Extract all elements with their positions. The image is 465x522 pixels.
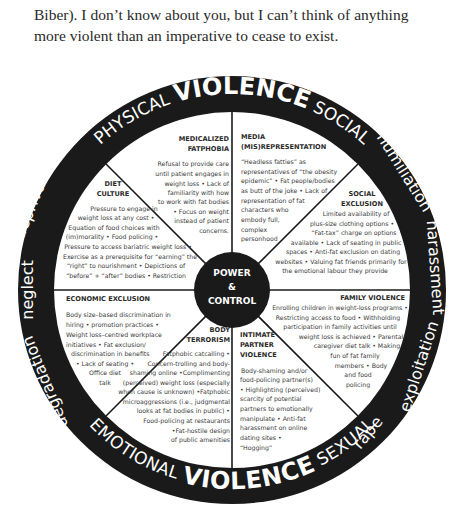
svg-text:Exercise as a prerequisite for: Exercise as a prerequisite for “earning”…: [63, 253, 197, 261]
svg-text:(MIS)REPRESENTATION: (MIS)REPRESENTATION: [241, 143, 326, 151]
svg-text:shaming online •Complimenting: shaming online •Complimenting: [130, 369, 230, 377]
svg-text:scarcity of potential: scarcity of potential: [240, 395, 302, 403]
svg-text:weight loss at any cost •: weight loss at any cost •: [78, 214, 155, 222]
svg-text:discrimination in benefits: discrimination in benefits: [71, 350, 149, 357]
svg-text:PARTNER: PARTNER: [240, 341, 274, 349]
svg-text:• Focus on weight: • Focus on weight: [173, 208, 229, 216]
svg-text:Body-shaming and/or: Body-shaming and/or: [241, 367, 308, 375]
svg-text:SOCIAL: SOCIAL: [349, 190, 377, 198]
svg-text:familiarity with how: familiarity with how: [168, 189, 229, 197]
svg-text:Food-policing at restaurants: Food-policing at restaurants: [143, 417, 230, 425]
svg-text:Limited availability of: Limited availability of: [323, 210, 390, 218]
svg-text:“right” to nourishment • Depic: “right” to nourishment • Depictions of: [67, 262, 186, 270]
svg-text:concerns.: concerns.: [199, 227, 229, 234]
svg-text:as butt of the joke • Lack of: as butt of the joke • Lack of: [241, 187, 328, 195]
svg-text:(im)morality • Food policing •: (im)morality • Food policing •: [66, 233, 158, 241]
svg-text:Weight loss–centred workplace: Weight loss–centred workplace: [66, 331, 162, 339]
svg-text:dating sites •: dating sites •: [240, 434, 282, 442]
svg-text:TERRORISM: TERRORISM: [186, 336, 230, 344]
svg-text:MEDICALIZED: MEDICALIZED: [179, 135, 230, 143]
svg-text:FAMILY VIOLENCE: FAMILY VIOLENCE: [340, 294, 405, 302]
svg-text:• Highlighting (perceived): • Highlighting (perceived): [240, 386, 320, 394]
svg-text:food-policing partner(s): food-policing partner(s): [240, 376, 313, 384]
svg-text:and food: and food: [344, 371, 371, 378]
svg-text:weight loss • Lack of: weight loss • Lack of: [164, 180, 229, 188]
svg-text:MEDIA: MEDIA: [241, 133, 266, 141]
svg-text:•Fat-hostile design: •Fat-hostile design: [172, 427, 230, 435]
svg-text:websites • Valuing fat friends: websites • Valuing fat friends primarily…: [275, 258, 407, 266]
svg-text:manipulate • Anti-fat: manipulate • Anti-fat: [240, 415, 306, 423]
svg-text:available • Lack of seating i: available • Lack of seating in public: [291, 239, 402, 247]
svg-text:weight loss is achieved • Pare: weight loss is achieved • Parental/: [299, 333, 407, 341]
svg-text:Pressure to access bariatric w: Pressure to access bariatric weight loss…: [64, 243, 192, 251]
svg-text:fun of fat family: fun of fat family: [330, 352, 380, 360]
svg-text:epidemic” • Fat people/bodies: epidemic” • Fat people/bodies: [241, 177, 335, 185]
svg-text:participation in family activ: participation in family activities until: [283, 323, 397, 331]
svg-text:representation of fat: representation of fat: [241, 197, 305, 205]
svg-text:characters who: characters who: [241, 206, 289, 213]
svg-text:personhood: personhood: [241, 235, 278, 243]
svg-text:ECONOMIC EXCLUSION: ECONOMIC EXCLUSION: [66, 295, 150, 303]
svg-text:INTIMATE: INTIMATE: [240, 331, 276, 339]
svg-text:“before” + “after” bodies • Re: “before” + “after” bodies • Restriction: [66, 272, 186, 279]
svg-text:Office diet: Office diet: [89, 369, 121, 376]
svg-text:talk: talk: [99, 379, 111, 386]
svg-text:harassment on online: harassment on online: [240, 424, 307, 431]
svg-text:Body size–based discrimination: Body size–based discrimination in: [66, 311, 171, 319]
svg-text:FATPHOBIA: FATPHOBIA: [188, 145, 230, 153]
svg-text:CULTURE: CULTURE: [97, 190, 130, 198]
svg-text:Enrolling children in weight-l: Enrolling children in weight-loss progra…: [272, 304, 408, 312]
svg-text:when cause is unknown) •Fatpho: when cause is unknown) •Fatphobic: [118, 388, 230, 396]
svg-text:Refusal to provide care: Refusal to provide care: [158, 160, 230, 168]
svg-text:EXCLUSION: EXCLUSION: [341, 200, 383, 208]
svg-text:&: &: [228, 282, 236, 292]
svg-text:POWER: POWER: [213, 268, 250, 278]
svg-text:(perceived) weight loss (espec: (perceived) weight loss (especially: [123, 379, 231, 387]
svg-text:plus-size clothing options •: plus-size clothing options •: [310, 220, 394, 228]
svg-text:caregiver diet talk • Making: caregiver diet talk • Making: [314, 342, 400, 350]
svg-text:initiatives • Fat exclusion/: initiatives • Fat exclusion/: [66, 341, 147, 348]
svg-text:Restricting access to food •: Restricting access to food • Withholding: [276, 314, 400, 322]
svg-text:the emotional labour they prov: the emotional labour they provide: [282, 267, 388, 275]
svg-text:“Fat-tax” charge on options: “Fat-tax” charge on options: [311, 229, 396, 237]
svg-text:VIOLENCE: VIOLENCE: [240, 351, 277, 359]
svg-text:spaces • Anti-fat exclusion on: spaces • Anti-fat exclusion on dating: [286, 248, 400, 256]
svg-text:microaggressions (i.e., judgme: microaggressions (i.e., judgmental: [123, 398, 231, 406]
power-control-wheel: PHYSICAL VIOLENCE SOCIAL EMOTIONAL VIOLE…: [0, 0, 465, 522]
ring-label-neglect: neglect: [18, 260, 37, 320]
svg-text:“Hogging”: “Hogging”: [240, 444, 272, 452]
svg-text:Pressure to engage in: Pressure to engage in: [90, 205, 157, 213]
svg-text:Equation of food choices with: Equation of food choices with: [68, 224, 159, 232]
svg-text:policing: policing: [346, 381, 370, 389]
svg-text:representatives of “the obesit: representatives of “the obesity: [241, 168, 337, 176]
svg-text:• Lack of seating •: • Lack of seating •: [76, 360, 134, 368]
svg-text:CONTROL: CONTROL: [208, 296, 257, 306]
svg-text:complex: complex: [241, 226, 268, 234]
svg-text:hiring • promotion practices •: hiring • promotion practices •: [66, 321, 159, 329]
svg-text:to work with fat bodies: to work with fat bodies: [158, 198, 229, 205]
svg-text:partners to emotionally: partners to emotionally: [240, 405, 313, 413]
svg-text:members • Body: members • Body: [335, 362, 388, 370]
svg-text:“Headless fatties” as: “Headless fatties” as: [241, 158, 306, 165]
svg-text:Fatphobic catcalling •: Fatphobic catcalling •: [163, 350, 230, 358]
svg-text:DIET: DIET: [105, 180, 122, 188]
svg-text:looks at fat bodies in public): looks at fat bodies in public) •: [137, 407, 230, 415]
svg-text:until patient engages in: until patient engages in: [155, 170, 229, 178]
svg-text:Concern-trolling and body-: Concern-trolling and body-: [148, 360, 230, 368]
svg-text:instead of patient: instead of patient: [174, 217, 229, 225]
svg-text:embody full,: embody full,: [241, 216, 280, 224]
svg-text:of public amenities: of public amenities: [171, 436, 230, 444]
